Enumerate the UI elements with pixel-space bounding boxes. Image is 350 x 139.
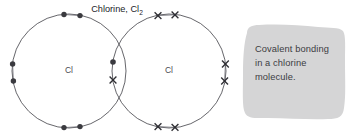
chlorine-covalent-bonding-figure: Cl Cl Chlorine, Cl2: [0, 0, 350, 139]
figure-title: Chlorine, Cl2: [91, 4, 143, 16]
electron-dot: [61, 125, 66, 130]
electron-dot: [61, 12, 66, 17]
figure-title-subscript: 2: [139, 9, 143, 16]
figure-title-main: Chlorine, Cl: [91, 4, 139, 14]
callout-text: Covalent bonding in a chlorine molecule.: [255, 42, 331, 85]
electron-dot: [10, 61, 15, 66]
shared-electron-dot: [110, 59, 116, 65]
left-atom-symbol: Cl: [65, 65, 73, 75]
electron-dot: [11, 78, 16, 83]
electron-dot: [77, 13, 82, 18]
electron-dot: [77, 124, 82, 129]
right-atom-symbol: Cl: [165, 65, 173, 75]
